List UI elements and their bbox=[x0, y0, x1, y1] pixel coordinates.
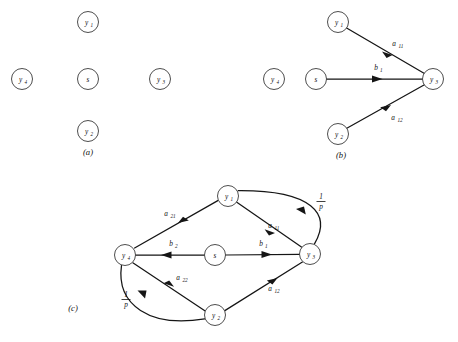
panel-c: a 21 a 11 1 p bbox=[68, 186, 325, 326]
edge-sublabel: 1 bbox=[380, 67, 383, 73]
edge-sublabel: 11 bbox=[399, 43, 404, 49]
fraction-denominator: p bbox=[318, 202, 323, 211]
edge-label: a bbox=[391, 113, 395, 122]
edge-y1-y4-c: a 21 bbox=[135, 201, 218, 248]
node-sublabel: 3 bbox=[436, 79, 439, 85]
edge-y2-y3-b: a 12 bbox=[347, 85, 424, 128]
node-y3-a: y 3 bbox=[150, 69, 171, 90]
node-sublabel: 2 bbox=[91, 131, 94, 137]
edge-label: b bbox=[169, 239, 173, 248]
fraction-1-over-p-lower: 1 p bbox=[122, 290, 131, 309]
edge-label: a bbox=[176, 273, 180, 282]
node-s-b: s bbox=[306, 69, 327, 90]
edge-label: b bbox=[374, 63, 378, 72]
fraction-numerator: 1 bbox=[319, 192, 323, 201]
edge-y4-y2-curve-c: 1 p bbox=[121, 265, 205, 320]
arrowhead bbox=[138, 291, 147, 299]
edge-curve bbox=[238, 191, 320, 244]
edge-y2-y4-c: a 22 bbox=[133, 263, 205, 311]
edge-sublabel: 21 bbox=[171, 213, 177, 219]
panel-caption-b: (b) bbox=[336, 150, 346, 160]
edge-y1-y3-c: a 11 bbox=[237, 202, 302, 247]
arrowhead bbox=[382, 52, 393, 58]
edge-y1-y3-b: a 11 bbox=[347, 28, 424, 73]
node-y2-b: y 2 bbox=[328, 124, 349, 145]
node-s-a: s bbox=[78, 69, 99, 90]
fraction-denominator: p bbox=[123, 300, 128, 309]
arrowhead bbox=[265, 229, 275, 235]
edge-sublabel: 1 bbox=[265, 243, 268, 249]
node-sublabel: 3 bbox=[313, 254, 316, 260]
panel-caption-a: (a) bbox=[83, 147, 93, 157]
node-label: s bbox=[315, 76, 318, 84]
arrowhead bbox=[262, 251, 273, 258]
node-y4-c: y 4 bbox=[115, 245, 136, 266]
edge-sublabel: 12 bbox=[398, 117, 404, 123]
arrowhead bbox=[161, 252, 172, 259]
edge-sublabel: 12 bbox=[275, 288, 281, 294]
node-y1-a: y 1 bbox=[78, 12, 99, 33]
node-sublabel: 4 bbox=[277, 79, 280, 85]
edge-label: a bbox=[392, 39, 396, 48]
node-y3-b: y 3 bbox=[423, 69, 444, 90]
edge-y2-y3-c: a 12 bbox=[225, 262, 303, 311]
figure-canvas: y 1 y 4 s y 3 y 4 bbox=[0, 0, 458, 342]
node-sublabel: 1 bbox=[91, 22, 94, 28]
node-label: s bbox=[214, 252, 217, 260]
arrowhead bbox=[164, 280, 175, 286]
node-sublabel: 4 bbox=[25, 79, 28, 85]
edge-s-y3-c: b 1 bbox=[226, 239, 300, 258]
fraction-numerator: 1 bbox=[124, 290, 128, 299]
fraction-1-over-p-upper: 1 p bbox=[317, 192, 326, 211]
panel-a: y 1 y 4 s y 3 y 4 bbox=[12, 12, 285, 158]
edge-label: b bbox=[259, 239, 263, 248]
edge-y3-y1-curve-c: 1 p bbox=[238, 191, 325, 244]
edge-s-y3-b: b 1 bbox=[327, 63, 423, 83]
node-y2-c: y 2 bbox=[205, 305, 226, 326]
edge-sublabel: 11 bbox=[275, 225, 280, 231]
node-sublabel: 4 bbox=[128, 255, 131, 261]
node-y3-c: y 3 bbox=[300, 244, 321, 265]
arrowhead bbox=[372, 76, 383, 83]
edge-label: a bbox=[164, 209, 168, 218]
panel-caption-c: (c) bbox=[68, 303, 78, 313]
node-sublabel: 2 bbox=[341, 134, 344, 140]
edge-sublabel: 22 bbox=[183, 277, 189, 283]
node-sublabel: 1 bbox=[341, 22, 344, 28]
edge-line bbox=[225, 262, 303, 311]
node-sublabel: 1 bbox=[231, 196, 234, 202]
node-y1-b: y 1 bbox=[328, 12, 349, 33]
edge-sublabel: 2 bbox=[175, 243, 178, 249]
edge-curve bbox=[121, 265, 205, 320]
edge-line bbox=[133, 263, 205, 311]
edge-line bbox=[347, 28, 424, 73]
figure-signal-flow-graphs: y 1 y 4 s y 3 y 4 bbox=[0, 0, 458, 342]
node-y2-a: y 2 bbox=[78, 121, 99, 142]
edge-label: a bbox=[268, 284, 272, 293]
panel-b: a 11 b 1 a 12 y 1 bbox=[306, 12, 444, 161]
node-label: s bbox=[87, 76, 90, 84]
node-s-c: s bbox=[205, 245, 226, 266]
node-sublabel: 3 bbox=[163, 79, 166, 85]
node-y4-left-a: y 4 bbox=[12, 69, 33, 90]
edge-label: a bbox=[268, 221, 272, 230]
node-y4-right-a: y 4 bbox=[264, 69, 285, 90]
edge-line bbox=[135, 201, 218, 248]
node-sublabel: 2 bbox=[218, 315, 221, 321]
node-y1-c: y 1 bbox=[218, 186, 239, 207]
arrowhead bbox=[296, 207, 306, 215]
